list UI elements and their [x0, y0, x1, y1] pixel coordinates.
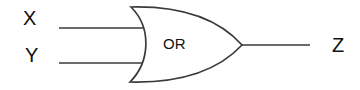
gate-label: OR: [163, 36, 186, 51]
or-gate-body: [130, 7, 242, 82]
input-label-x: X: [23, 8, 36, 28]
or-gate-diagram: X Y OR Z: [0, 0, 360, 90]
input-label-y: Y: [25, 45, 38, 65]
output-label-z: Z: [332, 35, 344, 55]
